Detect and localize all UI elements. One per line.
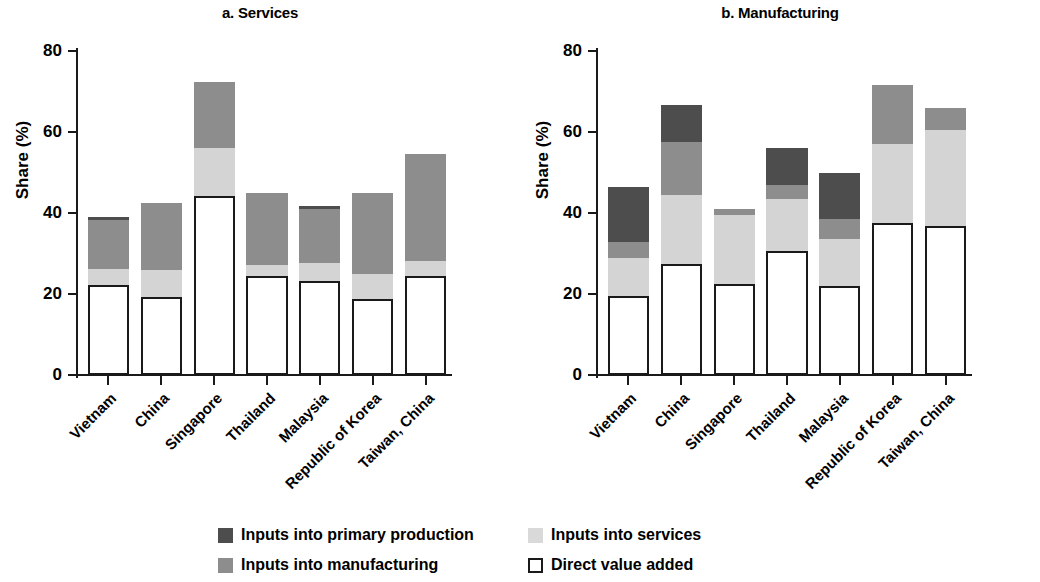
bar-segment-inputs-into-manufacturing (88, 220, 129, 269)
y-tick-80 (68, 50, 77, 52)
bar-republic-of-korea (872, 85, 913, 375)
bar-segment-inputs-into-services (141, 270, 182, 298)
y-tick-label-80: 80 (0, 42, 62, 59)
panel-manufacturing: b. Manufacturing Share (%) 020406080 Vie… (520, 0, 1040, 500)
panel-services: a. Services Share (%) 020406080 VietnamC… (0, 0, 520, 500)
bar-segment-inputs-into-services (194, 148, 235, 196)
panel-title-services: a. Services (0, 4, 520, 21)
bar-segment-inputs-into-services (299, 263, 340, 281)
bar-singapore (714, 209, 755, 375)
bar-segment-inputs-into-services (819, 239, 860, 286)
y-tick-0 (588, 374, 597, 376)
bar-malaysia (299, 206, 340, 375)
y-tick-60 (68, 131, 77, 133)
bar-segment-direct-value-added (661, 264, 702, 375)
legend-swatch-dva-icon (528, 558, 543, 573)
bar-segment-inputs-into-primary-production (608, 187, 649, 242)
bar-segment-inputs-into-services (405, 261, 446, 276)
plot-area-manufacturing (598, 51, 968, 375)
x-tick-5 (892, 376, 894, 385)
bar-segment-inputs-into-manufacturing (299, 209, 340, 264)
bar-segment-inputs-into-manufacturing (872, 85, 913, 144)
y-tick-label-40: 40 (520, 204, 582, 221)
bar-segment-inputs-into-services (352, 274, 393, 299)
y-tick-label-60: 60 (520, 123, 582, 140)
y-tick-label-60: 60 (0, 123, 62, 140)
bar-segment-inputs-into-primary-production (819, 173, 860, 220)
x-tick-1 (680, 376, 682, 385)
x-tick-0 (627, 376, 629, 385)
legend-item-dva[interactable]: Direct value added (528, 552, 828, 578)
bar-segment-direct-value-added (925, 226, 966, 375)
bar-segment-direct-value-added (872, 223, 913, 375)
bar-vietnam (608, 187, 649, 375)
bar-segment-direct-value-added (141, 297, 182, 375)
x-tick-1 (160, 376, 162, 385)
legend-item-prim[interactable]: Inputs into primary production (218, 522, 528, 548)
legend-label: Inputs into primary production (241, 526, 474, 544)
y-tick-40 (588, 212, 597, 214)
legend-item-serv[interactable]: Inputs into services (528, 522, 828, 548)
x-tick-2 (213, 376, 215, 385)
bar-segment-inputs-into-services (714, 215, 755, 284)
bar-segment-inputs-into-services (88, 269, 129, 285)
bar-segment-direct-value-added (819, 286, 860, 375)
bar-segment-direct-value-added (405, 276, 446, 375)
bar-segment-inputs-into-manufacturing (714, 209, 755, 215)
y-tick-label-80: 80 (520, 42, 582, 59)
y-tick-label-0: 0 (520, 366, 582, 383)
x-tick-0 (107, 376, 109, 385)
x-tick-4 (839, 376, 841, 385)
bar-segment-direct-value-added (766, 251, 807, 375)
y-tick-20 (68, 293, 77, 295)
legend-label: Inputs into manufacturing (241, 556, 438, 574)
legend-item-manu[interactable]: Inputs into manufacturing (218, 552, 528, 578)
x-tick-3 (266, 376, 268, 385)
x-tick-5 (372, 376, 374, 385)
bar-malaysia (819, 173, 860, 376)
bar-taiwan-china (925, 108, 966, 375)
bar-segment-inputs-into-manufacturing (246, 193, 287, 265)
legend-swatch-serv-icon (528, 528, 543, 543)
figure-root: a. Services Share (%) 020406080 VietnamC… (0, 0, 1040, 582)
bar-segment-direct-value-added (299, 281, 340, 375)
bar-segment-inputs-into-manufacturing (766, 185, 807, 199)
x-tick-3 (786, 376, 788, 385)
bar-segment-inputs-into-services (925, 130, 966, 226)
bar-segment-inputs-into-services (661, 195, 702, 264)
bar-segment-inputs-into-manufacturing (141, 203, 182, 270)
bar-segment-inputs-into-manufacturing (352, 193, 393, 274)
chart-legend: Inputs into primary productionInputs int… (0, 510, 1040, 582)
plot-area-services (78, 51, 448, 375)
legend-label: Direct value added (551, 556, 693, 574)
bar-segment-inputs-into-services (246, 265, 287, 276)
y-tick-40 (68, 212, 77, 214)
bar-china (141, 203, 182, 375)
bar-segment-inputs-into-manufacturing (925, 108, 966, 130)
bar-segment-direct-value-added (88, 285, 129, 375)
x-tick-6 (425, 376, 427, 385)
bar-segment-direct-value-added (714, 284, 755, 375)
bar-segment-direct-value-added (352, 299, 393, 375)
bar-segment-inputs-into-manufacturing (194, 82, 235, 148)
bar-segment-inputs-into-manufacturing (405, 154, 446, 261)
bar-segment-inputs-into-primary-production (766, 148, 807, 184)
panel-title-manufacturing: b. Manufacturing (520, 4, 1040, 21)
legend-swatch-manu-icon (218, 558, 233, 573)
bar-segment-direct-value-added (194, 196, 235, 375)
x-tick-4 (319, 376, 321, 385)
bar-segment-inputs-into-services (766, 199, 807, 251)
y-tick-20 (588, 293, 597, 295)
bar-segment-inputs-into-manufacturing (608, 242, 649, 258)
bar-china (661, 105, 702, 375)
y-tick-60 (588, 131, 597, 133)
bar-segment-inputs-into-services (608, 258, 649, 296)
bar-thailand (246, 193, 287, 375)
y-tick-label-40: 40 (0, 204, 62, 221)
bar-segment-inputs-into-manufacturing (819, 219, 860, 239)
bar-segment-inputs-into-services (872, 144, 913, 223)
legend-items: Inputs into primary productionInputs int… (218, 522, 828, 578)
bar-taiwan-china (405, 154, 446, 375)
bar-thailand (766, 148, 807, 375)
bar-segment-inputs-into-primary-production (88, 217, 129, 221)
